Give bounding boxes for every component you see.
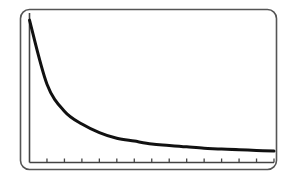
calculator-graph-screen [0,0,289,174]
decay-curve-chart [0,0,289,174]
screen-frame [21,10,277,170]
data-curve [30,20,275,151]
